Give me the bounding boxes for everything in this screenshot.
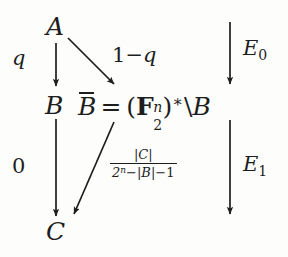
e0-subscript: 0 bbox=[258, 47, 267, 63]
arrow-a-to-bbar bbox=[68, 38, 114, 84]
e0-base: E bbox=[243, 36, 258, 60]
star-symbol: ∗ bbox=[172, 94, 183, 110]
subscript-2: 2 bbox=[153, 118, 162, 132]
b-symbol: B bbox=[192, 94, 210, 119]
edge-label-one-minus-q: 1−q bbox=[112, 45, 156, 66]
open-paren: ( bbox=[126, 94, 136, 119]
close-paren: ) bbox=[162, 94, 172, 119]
e1-subscript: 1 bbox=[258, 163, 267, 179]
commutative-diagram: A B C B = ( F n 2 ) ∗ \ B q 1−q 0 |C| 2n… bbox=[0, 0, 288, 257]
edge-label-e0: E0 bbox=[243, 38, 267, 59]
e1-base: E bbox=[243, 152, 258, 176]
fraction-numerator: |C| bbox=[110, 148, 177, 163]
minus-sign: − bbox=[125, 43, 143, 67]
denominator-abs-b: |B| bbox=[137, 165, 155, 180]
edge-label-zero: 0 bbox=[12, 156, 25, 177]
fraction-denominator: 2n−|B|−1 bbox=[110, 164, 177, 179]
denominator-exponent: n bbox=[120, 165, 126, 175]
node-b-bar-definition: B = ( F n 2 ) ∗ \ B bbox=[78, 93, 211, 131]
denominator-minus-2: − bbox=[155, 165, 166, 180]
denominator-one: 1 bbox=[166, 165, 174, 180]
edge-label-fraction: |C| 2n−|B|−1 bbox=[110, 148, 177, 179]
b-bar-symbol: B bbox=[78, 93, 96, 119]
f-exponents: n 2 bbox=[153, 101, 162, 129]
equals-sign: = bbox=[100, 94, 121, 119]
node-a: A bbox=[46, 14, 64, 39]
edge-label-e1: E1 bbox=[243, 154, 267, 175]
blackboard-f-icon: F bbox=[136, 94, 153, 119]
one-digit: 1 bbox=[112, 43, 125, 67]
edge-label-q: q bbox=[12, 48, 25, 69]
node-b: B bbox=[45, 93, 63, 118]
node-c: C bbox=[46, 219, 65, 244]
denominator-minus-1: − bbox=[126, 165, 137, 180]
arrow-bbar-to-c bbox=[74, 122, 114, 214]
q-symbol: q bbox=[143, 43, 156, 67]
superscript-n: n bbox=[153, 100, 162, 114]
